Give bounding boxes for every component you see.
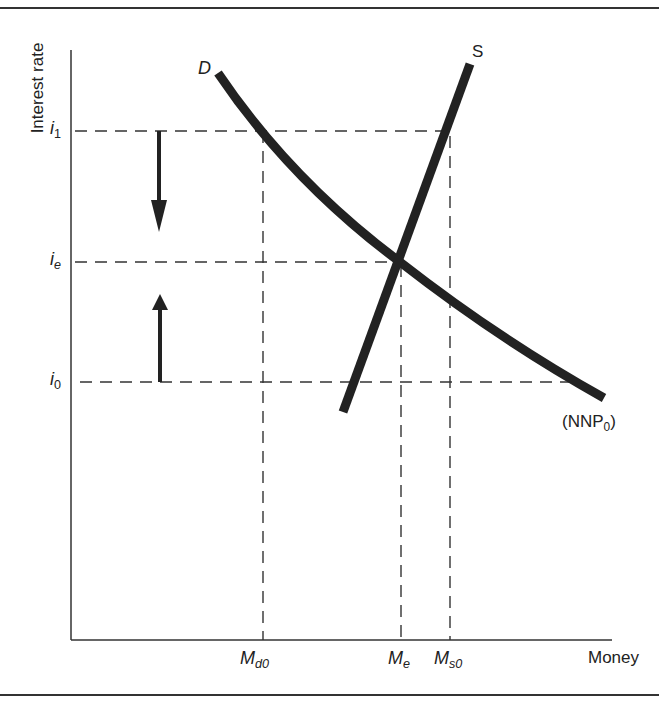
nnp-text: (NNP xyxy=(562,412,604,431)
tick-ms0-text: M xyxy=(434,648,449,668)
x-axis-label: Money xyxy=(588,648,639,668)
tick-i1: i1 xyxy=(50,118,61,141)
demand-label: D xyxy=(198,58,211,79)
supply-label: S xyxy=(472,42,483,62)
tick-me-text: M xyxy=(388,648,403,668)
tick-md0: Md0 xyxy=(240,648,269,671)
supply-curve xyxy=(343,64,470,412)
diagram-canvas xyxy=(0,0,659,714)
tick-md0-text: M xyxy=(240,648,255,668)
tick-me-sub: e xyxy=(403,657,410,671)
tick-ms0: Ms0 xyxy=(434,648,462,671)
arrow-down-icon xyxy=(151,131,167,232)
tick-i1-sub: 1 xyxy=(54,127,61,141)
guide-lines xyxy=(75,131,575,640)
nnp-close: ) xyxy=(610,412,616,431)
tick-ms0-sub: s0 xyxy=(449,657,462,671)
tick-i0: i0 xyxy=(50,369,61,392)
tick-i0-sub: 0 xyxy=(54,378,61,392)
tick-ie-sub: e xyxy=(54,258,61,272)
y-axis-label: Interest rate xyxy=(28,28,48,148)
arrow-up-icon xyxy=(152,294,168,382)
tick-md0-sub: d0 xyxy=(255,657,269,671)
tick-me: Me xyxy=(388,648,410,671)
nnp-label: (NNP0) xyxy=(562,412,616,434)
tick-ie: ie xyxy=(50,249,61,272)
